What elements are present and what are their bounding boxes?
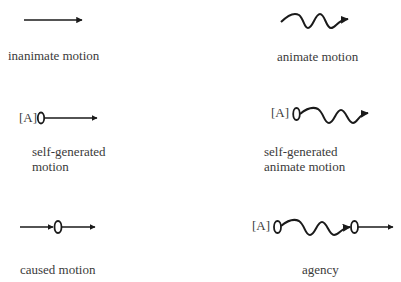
self-generated-animate-wave-icon [293,108,368,123]
label-self-generated-animate-motion: self-generated animate motion [264,144,345,174]
label-self-generated-motion: self-generated motion [32,144,106,174]
agent-marker-self-generated: [A] [19,110,37,126]
animate-wave-arrow-icon [281,14,348,28]
label-line-1: self-generated [264,144,345,159]
self-generated-arrow-icon [38,113,97,124]
label-agency: agency [302,262,339,277]
label-line-1: self-generated [32,144,106,159]
agent-marker-self-generated-animate: [A] [271,105,289,121]
label-inanimate-motion: inanimate motion [8,48,99,63]
caused-motion-arrow-icon [20,221,95,233]
agent-marker-agency: [A] [252,218,270,234]
label-line-2: motion [32,159,106,174]
motion-diagram [0,0,401,282]
label-animate-motion: animate motion [277,49,358,64]
agency-arrow-icon [274,220,393,235]
label-caused-motion: caused motion [20,262,95,277]
label-line-2: animate motion [264,159,345,174]
